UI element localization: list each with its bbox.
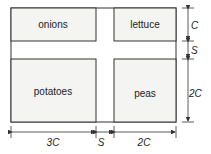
plot-label: onions — [38, 19, 67, 30]
plot-label: lettuce — [130, 19, 160, 30]
dim-label: S — [191, 45, 198, 56]
bottom-dimension-line — [11, 126, 176, 138]
plot-label: potatoes — [34, 86, 72, 97]
dim-label: 3C — [47, 137, 61, 148]
dim-label: C — [191, 20, 199, 31]
dim-label: S — [98, 137, 105, 148]
dim-label: 2C — [188, 88, 203, 99]
dim-label: 2C — [137, 137, 152, 148]
garden-diagram: onions lettuce potatoes peas C S 2C 3C S… — [0, 0, 211, 154]
plot-label: peas — [134, 88, 156, 99]
